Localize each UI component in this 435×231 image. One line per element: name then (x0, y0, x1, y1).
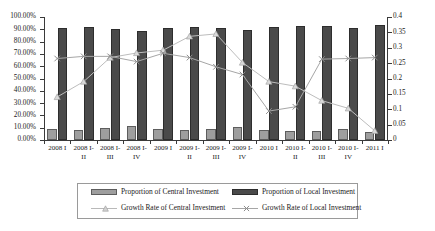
cross-marker-icon (240, 72, 246, 78)
line-growth-local-investment (54, 50, 377, 113)
legend-line-central-icon (91, 204, 117, 212)
legend-swatch-local-icon (232, 189, 258, 195)
right-tick (388, 63, 392, 64)
legend-swatch-central-icon (91, 189, 117, 195)
series-path (57, 34, 375, 131)
right-axis-tick-label: 0.3 (393, 44, 402, 51)
right-axis-tick-label: 0.35 (393, 29, 406, 36)
x-axis-category-label: 2011 I (355, 144, 395, 153)
x-label-line2: IV (222, 153, 262, 162)
legend-item-growth-central: Growth Rate of Central Investment (91, 204, 225, 212)
right-axis-tick-label: 0.05 (393, 121, 406, 128)
plot-area (44, 17, 388, 140)
right-axis-tick-label: 0.1 (393, 106, 402, 113)
left-axis-tick-label: 90.00% (14, 26, 36, 33)
x-label-line2: IV (116, 153, 156, 162)
chart-container: 0.00%10.00%20.00%30.00%40.00%50.00%60.00… (0, 0, 435, 231)
right-tick (388, 32, 392, 33)
left-axis-tick-label: 20.00% (14, 112, 36, 119)
cross-marker-icon (213, 64, 219, 70)
left-axis-tick-label: 100.00% (10, 13, 36, 20)
x-label-line1: 2011 I (355, 144, 395, 153)
left-axis-tick-label: 60.00% (14, 63, 36, 70)
right-tick (388, 109, 392, 110)
left-axis-tick-label: 10.00% (14, 124, 36, 131)
line-growth-central-investment (54, 31, 378, 134)
legend-item-proportion-local: Proportion of Local Investment (232, 188, 355, 196)
left-axis-tick-label: 50.00% (14, 75, 36, 82)
left-axis-tick-label: 80.00% (14, 38, 36, 45)
x-label-line2: IV (328, 153, 368, 162)
legend-item-proportion-central: Proportion of Central Investment (91, 188, 219, 196)
x-axis-line (44, 140, 388, 141)
left-axis-tick-label: 40.00% (14, 87, 36, 94)
line-layer (44, 17, 388, 140)
triangle-marker-icon (319, 98, 325, 104)
cross-marker-icon (243, 205, 250, 212)
right-tick (388, 79, 392, 80)
right-axis-tick-label: 0.2 (393, 75, 402, 82)
legend-label-proportion-central: Proportion of Central Investment (121, 188, 219, 196)
chart-legend: Proportion of Central Investment Proport… (77, 183, 358, 219)
legend-item-growth-local: Growth Rate of Local Investment (232, 204, 361, 212)
triangle-marker-icon (102, 205, 109, 212)
left-axis-tick-label: 30.00% (14, 100, 36, 107)
legend-label-growth-central: Growth Rate of Central Investment (121, 204, 225, 212)
right-axis-tick-label: 0.15 (393, 90, 406, 97)
right-axis-tick-label: 0.25 (393, 60, 406, 67)
legend-label-proportion-local: Proportion of Local Investment (262, 188, 355, 196)
triangle-marker-icon (54, 94, 60, 100)
right-axis-tick-label: 0.4 (393, 13, 402, 20)
legend-label-growth-local: Growth Rate of Local Investment (262, 204, 361, 212)
right-tick (388, 125, 392, 126)
right-tick (388, 48, 392, 49)
triangle-marker-icon (266, 78, 272, 84)
left-axis-tick-label: 70.00% (14, 50, 36, 57)
right-axis-tick-label: 0 (393, 136, 397, 143)
right-tick (388, 94, 392, 95)
right-tick (388, 17, 392, 18)
legend-line-local-icon (232, 204, 258, 212)
x-axis-category-labels: 2008 I2008 I-II2008 I-III2008 I-IV2009 I… (44, 144, 388, 172)
left-axis-tick-label: 0.00% (17, 136, 36, 143)
